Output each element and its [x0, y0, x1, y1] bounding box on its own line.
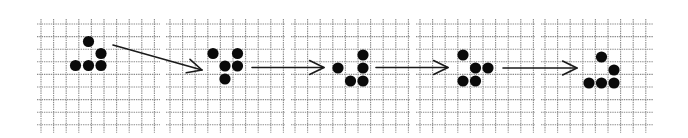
panel-gen-1 — [166, 19, 285, 133]
live-cell-dot — [457, 49, 468, 60]
live-cell-dot — [596, 77, 607, 88]
live-cell-dot — [70, 60, 81, 71]
diagram-canvas — [0, 0, 688, 138]
live-cell-dot — [470, 62, 481, 73]
panel-gen-2 — [291, 19, 410, 133]
arrow-3-icon — [376, 61, 448, 75]
live-cell-dot — [232, 48, 243, 59]
live-cell-dot — [207, 48, 218, 59]
live-cell-dot — [457, 75, 468, 86]
glider-diagram — [0, 0, 688, 138]
live-cell-dot — [219, 73, 230, 84]
panel-gen-4 — [541, 19, 653, 133]
live-cell-dot — [357, 62, 368, 73]
live-cell-dot — [608, 77, 619, 88]
live-cell-dot — [357, 49, 368, 60]
live-cell-dot — [583, 77, 594, 88]
panel-gen-3 — [416, 19, 535, 133]
live-cell-dot — [95, 60, 106, 71]
live-cell-dot — [482, 62, 493, 73]
arrow-2-icon — [252, 61, 324, 75]
grid-panels — [37, 19, 653, 133]
panel-gen-0 — [37, 19, 160, 133]
live-cell-dot — [232, 60, 243, 71]
live-cell-dot — [219, 60, 230, 71]
live-cell-dot — [470, 75, 481, 86]
live-cell-dot — [608, 64, 619, 75]
live-cell-dot — [596, 51, 607, 62]
live-cell-dot — [345, 75, 356, 86]
live-cell-dot — [83, 60, 94, 71]
arrow-4-icon — [503, 61, 577, 75]
live-cell-dot — [95, 48, 106, 59]
live-cell-dot — [83, 36, 94, 47]
live-cell-dot — [357, 75, 368, 86]
live-cell-dot — [332, 62, 343, 73]
